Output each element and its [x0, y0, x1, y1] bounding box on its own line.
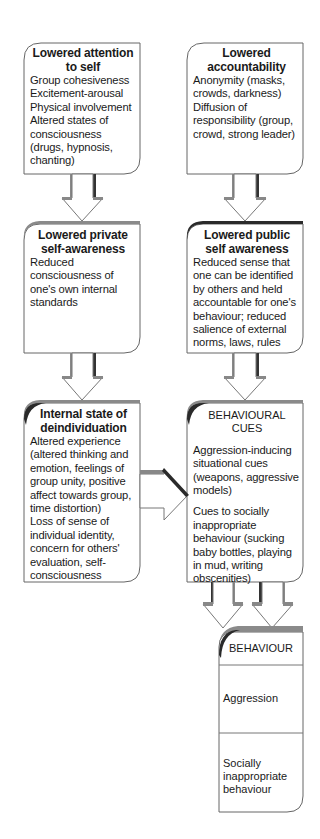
- node-title: Lowered public self awareness: [193, 229, 301, 256]
- title-line: self-awareness: [30, 243, 136, 257]
- node-text-line: salience of external: [193, 323, 301, 336]
- node-text-line: individual identity,: [30, 529, 137, 542]
- node-text-line: Cues to socially: [193, 505, 301, 518]
- node-text-line: (weapons, aggressive: [193, 471, 301, 484]
- node-text-line: Altered experience: [30, 435, 137, 448]
- node-text-line: by others and held: [193, 283, 301, 296]
- title-line: Internal state of: [30, 408, 137, 422]
- node-title: Lowered accountability: [193, 47, 300, 74]
- node-text-line: situational cues: [193, 457, 301, 470]
- node-text-line: obscenities): [193, 572, 301, 585]
- arrow-cues-to-behaviour-2: [252, 582, 293, 628]
- node-text-line: Diffusion of: [193, 101, 300, 114]
- node-text-line: behaviour; reduced: [193, 310, 301, 323]
- node-behavioural-cues: BEHAVIOURAL CUES Aggression-inducing sit…: [188, 406, 305, 586]
- node-title: BEHAVIOUR: [219, 642, 303, 655]
- node-text-line: consciousness: [30, 569, 137, 582]
- outcome-line: Socially inappropriate: [223, 757, 287, 782]
- node-behaviour: BEHAVIOUR Aggression Socially inappropri…: [219, 632, 303, 812]
- node-text-line: Reduced sense that: [193, 256, 301, 269]
- node-text-line: consciousness: [30, 128, 136, 141]
- node-text-line: one can be identified: [193, 269, 301, 282]
- node-text-line: evaluation, self-: [30, 556, 137, 569]
- node-text-line: models): [193, 484, 301, 497]
- node-text-line: responsibility (group,: [193, 114, 300, 127]
- arrow-attention-to-private: [62, 174, 103, 221]
- node-text-line: chanting): [30, 154, 136, 167]
- node-text-line: consciousness of: [30, 269, 136, 282]
- node-internal-state-of-deindividuation: Internal state of deindividuation Altere…: [25, 405, 141, 582]
- node-text-line: concern for others': [30, 542, 137, 555]
- node-text-line: crowds, darkness): [193, 87, 300, 100]
- arrow-cues-to-behaviour-1: [203, 582, 243, 628]
- title-line: deindividuation: [30, 422, 137, 436]
- title-line: accountability: [193, 61, 300, 75]
- node-text-line: Excitement-arousal: [30, 87, 136, 100]
- outcome-line: behaviour: [223, 783, 271, 795]
- node-title: Internal state of deindividuation: [30, 408, 137, 435]
- node-text-line: norms, laws, rules: [193, 336, 301, 349]
- node-text-line: inappropriate: [193, 519, 301, 532]
- arrow-internal-to-cues: [140, 468, 189, 520]
- title-line: Lowered public: [193, 229, 301, 243]
- arrow-public-to-cues: [224, 353, 266, 400]
- node-text-line: (altered thinking and: [30, 448, 137, 461]
- spacer: [193, 436, 301, 444]
- node-lowered-attention: Lowered attention to self Group cohesive…: [25, 44, 140, 168]
- node-text-line: Loss of sense of: [30, 515, 137, 528]
- outcome-aggression: Aggression: [219, 692, 303, 705]
- node-text-line: in mud, writing: [193, 559, 301, 572]
- node-text-line: baby bottles, playing: [193, 546, 301, 559]
- title-line: Lowered: [193, 47, 300, 61]
- node-text-line: behaviour (sucking: [193, 532, 301, 545]
- node-lowered-private-self-awareness: Lowered private self-awareness Reduced c…: [25, 226, 140, 310]
- node-text-line: Altered states of: [30, 114, 136, 127]
- node-text-line: affect towards group,: [30, 489, 137, 502]
- outcome-socially-inappropriate-behaviour: Socially inappropriate behaviour: [219, 757, 303, 796]
- title-line: Lowered attention: [30, 47, 136, 61]
- node-title: BEHAVIOURAL CUES: [193, 409, 301, 436]
- node-lowered-public-self-awareness: Lowered public self awareness Reduced se…: [188, 226, 305, 350]
- node-text-line: emotion, feelings of: [30, 462, 137, 475]
- title-line: Lowered private: [30, 229, 136, 243]
- arrow-private-to-internal: [62, 353, 103, 400]
- node-text-line: accountable for one's: [193, 296, 301, 309]
- title-line: self awareness: [193, 243, 301, 257]
- node-text-line: time distortion): [30, 502, 137, 515]
- arrow-accountability-to-public: [224, 174, 266, 221]
- node-text-line: Reduced: [30, 256, 136, 269]
- node-lowered-accountability: Lowered accountability Anonymity (masks,…: [188, 44, 304, 141]
- node-text-line: one's own internal: [30, 283, 136, 296]
- node-title: Lowered private self-awareness: [30, 229, 136, 256]
- node-text-line: Anonymity (masks,: [193, 74, 300, 87]
- node-text-line: Aggression-inducing: [193, 444, 301, 457]
- node-text-line: crowd, strong leader): [193, 128, 300, 141]
- node-title: Lowered attention to self: [30, 47, 136, 74]
- node-text-line: group unity, positive: [30, 475, 137, 488]
- node-text-line: standards: [30, 296, 136, 309]
- node-text-line: Physical involvement: [30, 101, 136, 114]
- node-text-line: Group cohesiveness: [30, 74, 136, 87]
- node-text-line: (drugs, hypnosis,: [30, 141, 136, 154]
- spacer: [193, 497, 301, 505]
- title-line: to self: [30, 61, 136, 75]
